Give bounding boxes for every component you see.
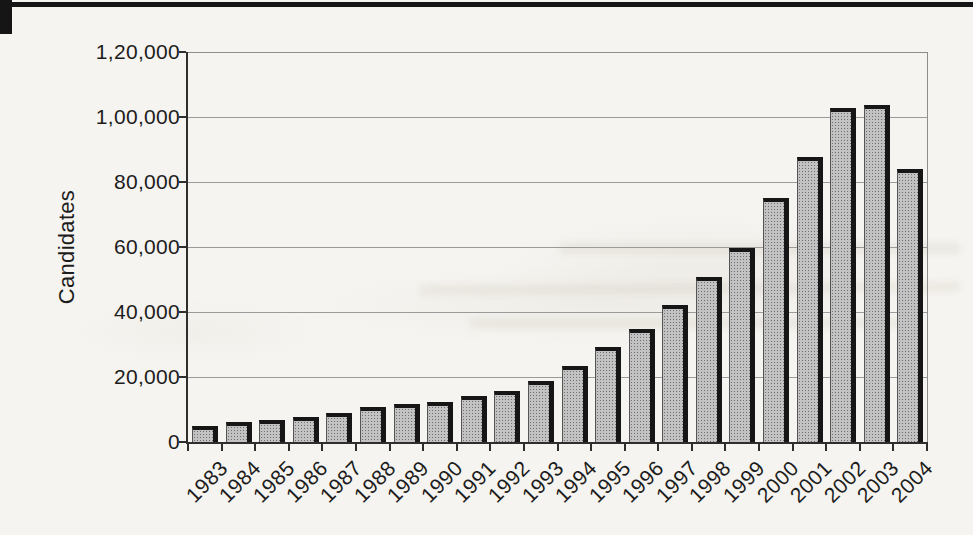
bar-1998 <box>696 277 722 442</box>
bar-1986 <box>293 417 319 442</box>
x-tick-mark <box>691 442 693 451</box>
x-tick-mark <box>254 442 256 451</box>
y-tick-label: 20,000 <box>58 366 180 388</box>
gridline <box>188 117 927 118</box>
x-tick-mark <box>523 442 525 451</box>
bar-1985 <box>259 420 285 442</box>
bar-1988 <box>360 407 386 442</box>
y-tick-label: 1,20,000 <box>58 41 180 63</box>
bar-2000 <box>763 198 789 442</box>
x-tick-mark <box>288 442 290 451</box>
x-tick-mark <box>489 442 491 451</box>
y-tick-label: 0 <box>58 431 180 453</box>
y-tick-mark <box>179 246 186 248</box>
bar-1983 <box>192 426 218 442</box>
x-tick-mark <box>456 442 458 451</box>
bar-1999 <box>729 248 755 442</box>
y-tick-mark <box>179 181 186 183</box>
x-tick-mark <box>624 442 626 451</box>
bar-2004 <box>897 169 923 442</box>
y-tick-label: 40,000 <box>58 301 180 323</box>
bar-2002 <box>830 108 856 442</box>
y-tick-mark <box>179 376 186 378</box>
y-tick-mark <box>179 116 186 118</box>
bar-2003 <box>864 105 890 442</box>
x-tick-mark <box>221 442 223 451</box>
y-tick-label: 1,00,000 <box>58 106 180 128</box>
plot-area <box>188 52 927 442</box>
x-tick-mark <box>758 442 760 451</box>
x-tick-mark <box>321 442 323 451</box>
bar-1997 <box>662 305 688 442</box>
y-tick-mark <box>179 311 186 313</box>
x-tick-mark <box>926 442 928 451</box>
y-tick-mark <box>179 51 186 53</box>
y-tick-label: 60,000 <box>58 236 180 258</box>
bar-1995 <box>595 347 621 442</box>
bar-1990 <box>427 402 453 442</box>
y-tick-mark <box>179 441 186 443</box>
bar-1991 <box>461 396 487 442</box>
bar-2001 <box>797 157 823 442</box>
bar-1994 <box>562 366 588 442</box>
x-tick-mark <box>389 442 391 451</box>
x-tick-mark <box>557 442 559 451</box>
y-tick-label: 80,000 <box>58 171 180 193</box>
bar-1993 <box>528 381 554 442</box>
x-tick-mark <box>187 442 189 451</box>
bar-1989 <box>394 404 420 442</box>
x-tick-mark <box>657 442 659 451</box>
bar-1992 <box>494 391 520 442</box>
x-tick-mark <box>724 442 726 451</box>
y-axis-line <box>186 52 188 444</box>
bar-1996 <box>629 329 655 442</box>
x-tick-mark <box>355 442 357 451</box>
x-tick-mark <box>590 442 592 451</box>
bar-chart: Candidates 020,00040,00060,00080,0001,00… <box>0 0 973 535</box>
x-tick-mark <box>422 442 424 451</box>
bar-1984 <box>226 422 252 442</box>
plot-border-right <box>927 52 928 442</box>
x-tick-mark <box>859 442 861 451</box>
plot-border-top <box>188 52 928 53</box>
x-tick-mark <box>792 442 794 451</box>
x-tick-mark <box>825 442 827 451</box>
bar-1987 <box>326 413 352 442</box>
scanned-page: Candidates 020,00040,00060,00080,0001,00… <box>0 0 973 535</box>
x-tick-mark <box>892 442 894 451</box>
